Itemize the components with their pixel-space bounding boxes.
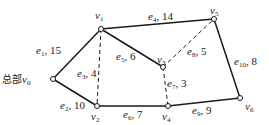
node-label-v3: v3 <box>157 53 166 67</box>
edge-labels-layer: e1, 15e2, 10e3, 4e4, 14e5, 6e6, 7e7, 3e8… <box>36 10 257 122</box>
network-graph-diagram: e1, 15e2, 10e3, 4e4, 14e5, 6e6, 7e7, 3e8… <box>0 0 269 125</box>
node-label-v5: v5 <box>210 4 219 18</box>
node-label-v6: v6 <box>245 100 254 114</box>
node-v0 <box>51 77 56 82</box>
edge-e3 <box>97 29 101 106</box>
edge-label-e3: e3, 4 <box>77 67 97 81</box>
edge-label-e2: e2, 10 <box>60 99 85 113</box>
node-label-v0: 总部v0 <box>2 73 31 87</box>
edge-label-e7: e7, 3 <box>167 77 187 91</box>
node-label-v2: v2 <box>91 110 100 124</box>
node-v6 <box>238 96 243 101</box>
edges-layer <box>53 19 240 106</box>
edge-label-e6: e6, 7 <box>123 108 143 122</box>
node-label-v4: v4 <box>162 110 171 124</box>
edge-label-e9: e9, 9 <box>192 104 212 118</box>
node-label-v1: v1 <box>95 9 104 23</box>
edge-label-e5: e5, 6 <box>116 50 136 64</box>
edge-label-e8: e8, 5 <box>187 45 207 59</box>
edge-label-e10: e10, 8 <box>234 55 257 69</box>
edge-label-e1: e1, 15 <box>36 44 61 58</box>
edge-e8 <box>163 19 214 67</box>
node-v4 <box>166 104 171 109</box>
node-v2 <box>95 104 100 109</box>
node-v1 <box>99 27 104 32</box>
headquarters-label: 总部 <box>2 73 22 85</box>
edge-label-e4: e4, 14 <box>148 10 173 24</box>
